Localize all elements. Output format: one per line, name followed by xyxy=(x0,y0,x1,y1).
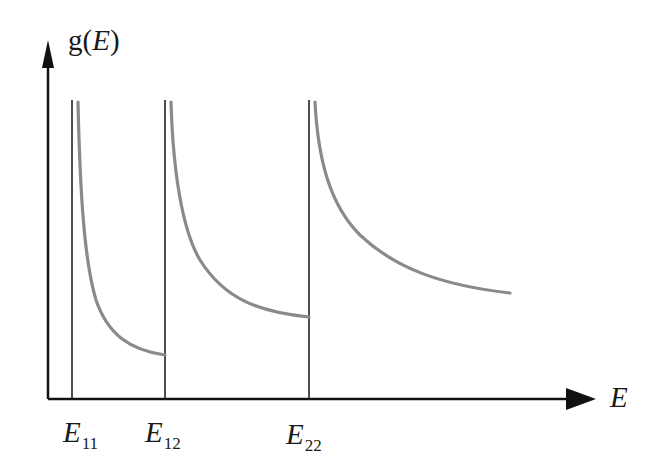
dos-diagram xyxy=(0,0,660,475)
dos-curve-branch-1 xyxy=(78,102,165,355)
y-label-close-paren: ) xyxy=(110,24,120,56)
x-axis-label: E xyxy=(610,381,628,414)
tick-e12-subscript: 12 xyxy=(164,434,181,453)
y-axis-arrow-icon xyxy=(42,40,54,68)
tick-e12-symbol: E xyxy=(145,416,163,448)
x-axis-arrow-icon xyxy=(566,388,596,410)
tick-e22-subscript: 22 xyxy=(305,436,322,455)
y-label-func: g xyxy=(68,24,83,56)
dos-curve-branch-3 xyxy=(315,102,510,293)
y-label-open-paren: ( xyxy=(83,24,93,56)
y-label-var: E xyxy=(92,24,110,56)
tick-label-e11: E11 xyxy=(63,416,98,449)
tick-label-e12: E12 xyxy=(145,416,181,449)
dos-curve-branch-2 xyxy=(171,102,309,317)
tick-e22-symbol: E xyxy=(286,418,304,450)
tick-label-e22: E22 xyxy=(286,418,322,451)
tick-e11-subscript: 11 xyxy=(82,434,98,453)
tick-e11-symbol: E xyxy=(63,416,81,448)
y-axis-label: g(E) xyxy=(68,24,120,57)
